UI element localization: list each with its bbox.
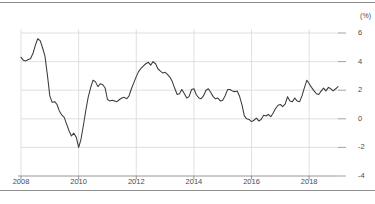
series-line-series-1 [21, 39, 338, 148]
x-tick-label: 2012 [128, 178, 145, 186]
bottom-divider [0, 190, 375, 191]
y-tick-label: 2 [358, 86, 362, 94]
y-tick-label: 4 [358, 58, 362, 66]
x-tick-label: 2008 [13, 178, 30, 186]
x-tick-label: 2018 [301, 178, 318, 186]
chart-figure: (%) -4-20246 200820102012201420162018 [0, 0, 375, 204]
line-chart-plot [0, 0, 375, 204]
data-series-group [21, 39, 338, 148]
x-tick-label: 2010 [70, 178, 87, 186]
x-tick-label: 2016 [243, 178, 260, 186]
y-axis-unit-label: (%) [360, 12, 371, 20]
y-tick-label: -4 [358, 172, 365, 180]
x-tick-label: 2014 [186, 178, 203, 186]
y-tick-label: -2 [358, 143, 365, 151]
gridlines-group [21, 29, 338, 176]
y-tick-label: 6 [358, 29, 362, 37]
figure-caption [2, 193, 373, 203]
y-tick-label: 0 [358, 115, 362, 123]
x-tickmarks-group [21, 33, 346, 180]
